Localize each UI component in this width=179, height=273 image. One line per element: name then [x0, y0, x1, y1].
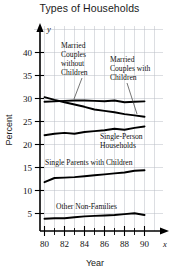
annotation-line: Single-Person	[100, 132, 143, 141]
annotation-line: Children	[110, 73, 137, 82]
xtick-label-90: 90	[140, 239, 150, 249]
annotation-line: Couples	[61, 50, 86, 59]
ytick-label-10: 10	[23, 186, 33, 196]
ytick-label-20: 20	[23, 140, 33, 150]
ytick-label-35: 35	[23, 71, 33, 81]
xtick-label-84: 84	[80, 239, 90, 249]
annotation-line: Children	[61, 68, 88, 77]
xtick-label-86: 86	[100, 239, 110, 249]
annotation-other-non-families: Other Non-Families	[56, 202, 117, 211]
y-tick-labels: 5 10 15 20 25 30 35 40	[23, 48, 33, 219]
chart-figure: Types of Households	[0, 0, 179, 273]
xtick-label-82: 82	[60, 239, 69, 249]
xtick-label-88: 88	[120, 239, 130, 249]
annotation-line: Married	[61, 41, 86, 50]
x-axis-title: Year	[86, 258, 104, 268]
x-tick-labels: 80 82 84 86 88 90	[40, 239, 150, 249]
y-axis-symbol: y	[46, 24, 51, 34]
x-axis-symbol: x	[162, 239, 167, 249]
ytick-label-5: 5	[28, 209, 33, 219]
annotation-line: Other Non-Families	[56, 202, 117, 211]
annotation-single-parents-with-children: Single Parents with Children	[45, 158, 133, 167]
gridlines-horizontal	[34, 30, 163, 214]
y-axis	[36, 23, 43, 231]
annotation-line: Households	[100, 141, 136, 150]
annotation-line: without	[61, 59, 85, 68]
ytick-label-25: 25	[23, 117, 33, 127]
y-axis-title: Percent	[4, 114, 14, 146]
annotation-line: Married	[110, 55, 135, 64]
annotation-single-person-households: Single-Person Households	[100, 132, 143, 150]
ytick-label-40: 40	[23, 48, 33, 58]
xtick-label-80: 80	[40, 239, 50, 249]
annotation-line: Single Parents with Children	[45, 158, 133, 167]
ytick-label-15: 15	[23, 163, 33, 173]
annotation-line: Couples with	[110, 64, 150, 73]
ytick-label-30: 30	[23, 94, 33, 104]
chart-plot-area: 5 10 15 20 25 30 35 40 80 82 84 86 88 90…	[0, 0, 179, 273]
